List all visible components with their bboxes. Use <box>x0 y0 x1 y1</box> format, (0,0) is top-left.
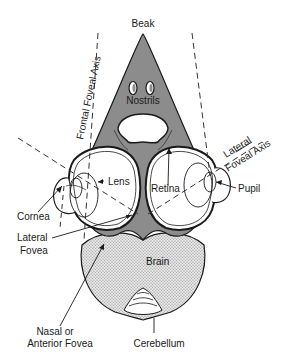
label-lateral-fovea-2: Fovea <box>20 245 48 256</box>
label-lens: Lens <box>108 176 130 187</box>
label-retina: Retina <box>151 183 180 194</box>
label-frontal-foveal-axis: Frontal Foveal Axis <box>74 55 102 140</box>
label-cerebellum: Cerebellum <box>133 338 184 349</box>
bird-eye-diagram: Beak Nostrils Frontal Foveal Axis Latera… <box>0 0 287 364</box>
label-cornea: Cornea <box>17 211 50 222</box>
label-nostrils: Nostrils <box>126 95 159 106</box>
label-nasal-fovea-2: Anterior Fovea <box>27 338 93 349</box>
label-lateral-fovea-1: Lateral <box>17 232 48 243</box>
nasal-cavity <box>118 114 168 143</box>
label-pupil: Pupil <box>238 183 260 194</box>
label-brain: Brain <box>146 256 169 267</box>
label-nasal-fovea-1: Nasal or <box>36 326 74 337</box>
label-beak: Beak <box>132 18 156 29</box>
